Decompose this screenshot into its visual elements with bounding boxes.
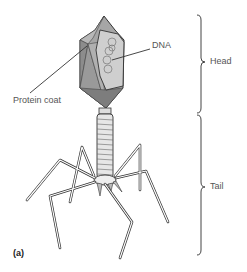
tail-brace [197, 115, 205, 255]
capsid-head [80, 16, 124, 108]
phage-illustration [0, 0, 247, 272]
tail-label: Tail [210, 181, 224, 191]
tail-sheath [94, 108, 122, 196]
dna-label: DNA [152, 40, 171, 50]
protein-coat-label: Protein coat [13, 95, 61, 105]
panel-label: (a) [13, 248, 24, 258]
head-brace [197, 15, 205, 113]
head-label: Head [210, 56, 232, 66]
protein-coat-leader-line [30, 46, 87, 93]
